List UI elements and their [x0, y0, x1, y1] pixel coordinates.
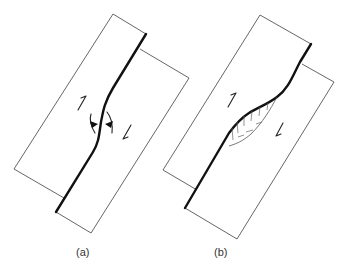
panel-b-label: (b) — [214, 246, 227, 258]
fault-diagram: (a) (b) — [0, 0, 346, 268]
panel-b-right-block — [185, 64, 334, 239]
panel-b-fault — [185, 44, 311, 208]
panel-a-label: (a) — [76, 246, 89, 258]
panel-b-left-block — [163, 15, 311, 190]
panel-a-fault — [56, 34, 146, 212]
panel-a-right-block — [56, 49, 189, 233]
panel-a-shear-arrow-right-icon — [123, 125, 131, 139]
panel-a-compression-arrow-left-icon — [90, 114, 98, 133]
panel-a-compression-arrow-right-icon — [105, 112, 113, 133]
panel-b: (b) — [163, 15, 334, 258]
panel-a: (a) — [14, 14, 189, 258]
panel-b-basin-boundary — [229, 97, 277, 146]
panel-b-shear-arrow-left-icon — [228, 93, 236, 107]
panel-a-shear-arrow-left-icon — [78, 96, 86, 110]
panel-b-shear-arrow-right-icon — [276, 123, 283, 136]
